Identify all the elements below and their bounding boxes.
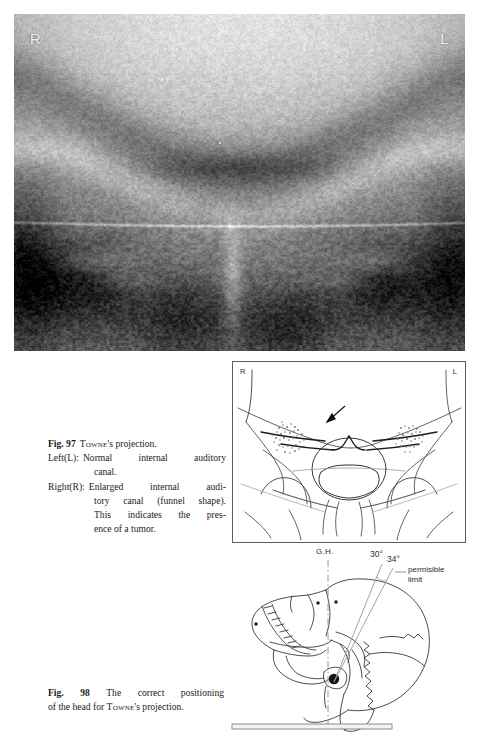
table-surface-bar (232, 724, 392, 729)
caption-97-title-row: Fig. 97 Towne's projection. (48, 437, 226, 451)
caption-98-line-2: of the head for Towne's projection. (48, 700, 224, 714)
schematic-marker-left: L (453, 367, 457, 376)
caption-97-right-cont-3: ence of a tumor. (94, 522, 226, 536)
towne-projection-radiograph (14, 14, 465, 351)
caption-98-line-2-pre: of the head for (48, 701, 107, 712)
caption-97-value-right: Enlarged internal audi- (85, 480, 226, 494)
stipple-right-canal (272, 421, 305, 454)
angle-30-label: 30° (370, 549, 383, 559)
caption-97-row-right: Right(R): Enlarged internal audi- (48, 480, 226, 494)
angle-34-label: 34° (387, 554, 400, 564)
landmark-dot-superior (334, 600, 337, 603)
skull-figure: G.H. 30° 34° permisible limit (230, 546, 470, 736)
figure-97-label: Fig. 97 (48, 437, 76, 451)
caption-97-left-cont: canal. (94, 465, 226, 479)
xray-marker-right: R (30, 30, 41, 47)
figure-98-caption: Fig. 98 The correct positioning of the h… (48, 686, 224, 714)
caption-97-key-right: Right(R): (48, 480, 85, 494)
german-horizontal-label: G.H. (316, 547, 334, 556)
landmark-dot-orbital (316, 601, 319, 604)
caption-98-line-1: Fig. 98 The correct positioning (48, 686, 224, 700)
caption-97-value-left: Normal internal auditory (79, 451, 226, 465)
towne-name: Towne (80, 438, 108, 449)
caption-97-title: Towne's projection. (76, 437, 226, 451)
permissible-limit-label: permisible limit (408, 565, 444, 585)
permissible-limit-line-2: limit (408, 575, 422, 584)
caption-97-right-cont-2: This indicates the pres- (94, 508, 226, 522)
xray-marker-left: L (440, 30, 449, 47)
caption-98-line-2-post: 's projection. (134, 701, 183, 712)
landmark-dot-anterior (254, 622, 257, 625)
caption-97-right-cont-1: tory canal (funnel shape). (94, 494, 226, 508)
towne-name-2: Towne (107, 701, 135, 712)
caption-98-line-1-text: The correct positioning (106, 687, 224, 698)
caption-97-title-rest: 's projection. (108, 438, 157, 449)
towne-projection-line-diagram (233, 362, 465, 542)
xray-figure: R L (14, 14, 465, 351)
permissible-limit-line-1: permisible (408, 565, 444, 574)
figure-98-label: Fig. 98 (48, 687, 90, 698)
stipple-left-canal (395, 425, 424, 453)
caption-97-key-left: Left(L): (48, 451, 79, 465)
caption-97-row-left: Left(L): Normal internal auditory (48, 451, 226, 465)
pointer-arrow-icon (327, 406, 345, 422)
schematic-figure: R L (232, 361, 466, 543)
schematic-marker-right: R (240, 367, 245, 376)
figure-97-caption: Fig. 97 Towne's projection. Left(L): Nor… (48, 437, 226, 536)
